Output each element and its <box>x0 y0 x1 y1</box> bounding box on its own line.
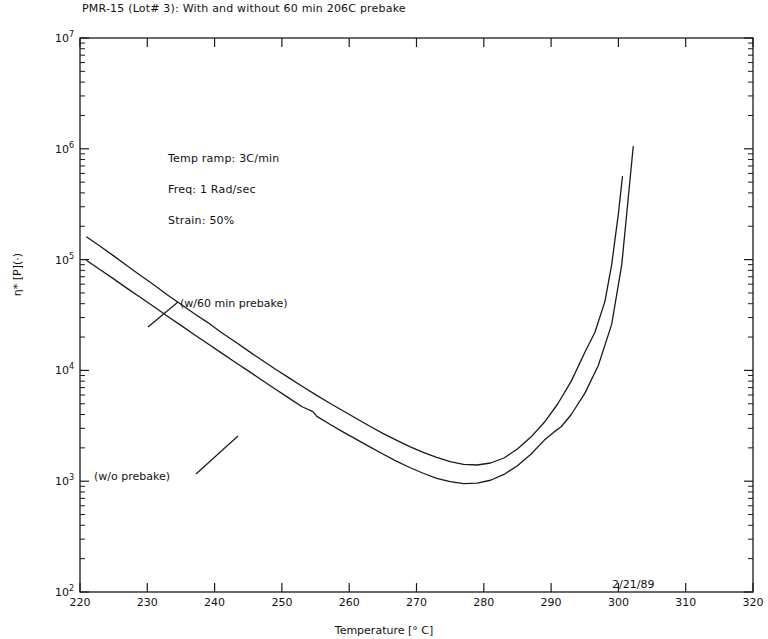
leader-without-prebake <box>196 436 238 474</box>
plot-area <box>0 0 768 639</box>
curve-with-prebake <box>87 177 623 465</box>
data-curves <box>87 146 633 483</box>
label-leader-lines <box>148 302 238 474</box>
axes-frame <box>80 38 753 592</box>
rheology-chart-figure: PMR-15 (Lot# 3): With and without 60 min… <box>0 0 768 639</box>
curve-without-prebake <box>87 146 633 483</box>
axis-tick-marks <box>80 38 753 592</box>
